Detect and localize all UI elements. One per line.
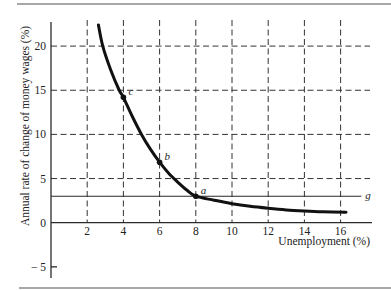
y-tick-label: − 5	[31, 261, 46, 273]
x-axis-label: Unemployment (%)	[278, 235, 370, 248]
reference-line-label: g	[365, 189, 371, 201]
y-tick-label: 10	[35, 128, 47, 140]
phillips-curve-line	[98, 25, 346, 212]
point-a-label: a	[201, 184, 207, 196]
x-tick-label: 8	[193, 225, 199, 237]
x-tick-label: 4	[121, 225, 127, 237]
grid-lines	[51, 20, 370, 267]
x-tick-label: 2	[84, 225, 90, 237]
y-tick-label: 5	[40, 173, 46, 185]
y-tick-label: 15	[35, 84, 47, 96]
y-tick-label: 20	[35, 40, 47, 52]
point-a-marker	[193, 193, 199, 199]
point-b-marker	[157, 159, 163, 165]
point-b-label: b	[165, 150, 171, 162]
x-tick-label: 6	[157, 225, 163, 237]
chart-canvas: 246810121416− 505101520 g cba Unemployme…	[0, 0, 391, 290]
point-c-marker	[121, 95, 127, 101]
x-tick-label: 10	[226, 225, 238, 237]
point-c-label: c	[128, 85, 133, 97]
x-tick-label: 12	[262, 225, 274, 237]
phillips-curve-figure: 246810121416− 505101520 g cba Unemployme…	[0, 0, 391, 290]
y-axis-label: Annual rate of change of money wages (%)	[19, 26, 32, 226]
labeled-points: cba	[121, 85, 207, 199]
y-tick-label: 0	[40, 217, 46, 229]
data-series	[98, 25, 346, 212]
